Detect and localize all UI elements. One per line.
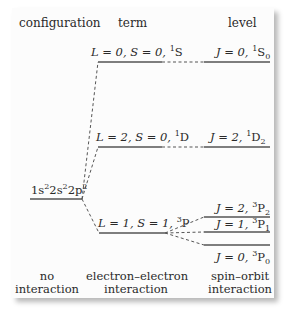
configuration-label: 1s22s22p2 bbox=[31, 184, 87, 197]
level-label-3P0: J = 0, 3P0 bbox=[216, 251, 270, 264]
footer-spin-orbit: spin–orbit interaction bbox=[208, 270, 272, 296]
header-level: level bbox=[228, 17, 257, 30]
connector-3P-3P1 bbox=[165, 232, 204, 233]
header-term: term bbox=[118, 17, 147, 30]
level-label-3P1: J = 1, 3P1 bbox=[216, 218, 270, 231]
footer-no-interaction: no interaction bbox=[14, 270, 80, 296]
connector-config-3P bbox=[82, 199, 99, 233]
level-label-3P2: J = 2, 3P2 bbox=[216, 202, 270, 215]
footer-electron-electron: electron–electron interaction bbox=[86, 270, 186, 296]
level-label-1D2: J = 2, 1D2 bbox=[210, 131, 266, 144]
connector-3P-3P0 bbox=[165, 233, 204, 245]
term-label-1S: L = 0, S = 0, 1S bbox=[91, 46, 183, 59]
level-label-1S0: J = 0, 1S0 bbox=[216, 46, 270, 59]
header-configuration: configuration bbox=[19, 17, 101, 30]
term-label-1D: L = 2, S = 0, 1D bbox=[96, 131, 189, 144]
term-label-3P: L = 1, S = 1, 3P bbox=[98, 217, 190, 230]
